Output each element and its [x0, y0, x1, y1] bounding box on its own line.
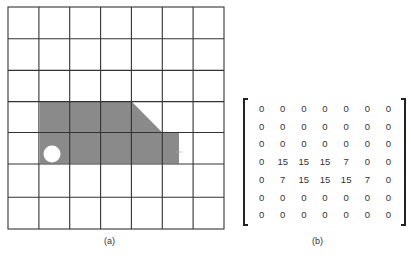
matrix-cell: 0: [272, 206, 293, 224]
matrix-cell: 0: [293, 135, 314, 153]
matrix-cell: 15: [293, 171, 314, 189]
matrix-cell: 0: [336, 118, 357, 136]
matrix-cell: 0: [378, 100, 399, 118]
object-hole: [44, 146, 61, 163]
matrix-cell: 7: [336, 153, 357, 171]
matrix-cell: 15: [336, 171, 357, 189]
matrix-cell: 0: [357, 135, 378, 153]
matrix-cell: 0: [272, 189, 293, 207]
matrix-cell: 0: [251, 135, 272, 153]
caption-b: (b): [312, 236, 323, 246]
matrix-cell: 0: [357, 189, 378, 207]
matrix-cell: 0: [314, 100, 335, 118]
matrix-cell: 0: [251, 189, 272, 207]
matrix-cell: 0: [251, 171, 272, 189]
matrix-cell: 0: [357, 118, 378, 136]
matrix-cell: 0: [251, 100, 272, 118]
matrix-cell: 15: [314, 153, 335, 171]
right-bracket: [401, 98, 406, 226]
matrix-cell: 0: [293, 189, 314, 207]
matrix-cell: 0: [336, 135, 357, 153]
matrix-cell: 0: [357, 100, 378, 118]
matrix-cell: 0: [314, 118, 335, 136]
matrix-grid: 0000000000000000000000151515700071515157…: [251, 100, 399, 224]
matrix-cell: 0: [293, 100, 314, 118]
matrix-cell: 0: [378, 118, 399, 136]
matrix-cell: 0: [378, 153, 399, 171]
matrix-cell: 0: [251, 153, 272, 171]
matrix-cell: 0: [378, 189, 399, 207]
matrix-cell: 0: [336, 189, 357, 207]
matrix-cell: 0: [314, 206, 335, 224]
value-matrix: 0000000000000000000000151515700071515157…: [243, 98, 406, 226]
matrix-cell: 0: [272, 135, 293, 153]
matrix-cell: 7: [357, 171, 378, 189]
matrix-cell: 0: [272, 100, 293, 118]
matrix-cell: 0: [272, 118, 293, 136]
matrix-cell: 0: [293, 118, 314, 136]
matrix-cell: 0: [314, 135, 335, 153]
matrix-cell: 7: [272, 171, 293, 189]
pixel-grid-figure: [0, 0, 232, 259]
caption-a: (a): [104, 236, 115, 246]
matrix-cell: 15: [314, 171, 335, 189]
matrix-cell: 0: [357, 206, 378, 224]
left-bracket: [243, 98, 248, 226]
matrix-cell: 0: [251, 206, 272, 224]
matrix-cell: 0: [378, 206, 399, 224]
matrix-cell: 0: [293, 206, 314, 224]
matrix-cell: 15: [293, 153, 314, 171]
matrix-cell: 0: [357, 153, 378, 171]
matrix-cell: 0: [336, 100, 357, 118]
matrix-cell: 0: [336, 206, 357, 224]
matrix-cell: 0: [378, 135, 399, 153]
matrix-cell: 0: [251, 118, 272, 136]
matrix-cell: 15: [272, 153, 293, 171]
matrix-cell: 0: [314, 189, 335, 207]
matrix-cell: 0: [378, 171, 399, 189]
